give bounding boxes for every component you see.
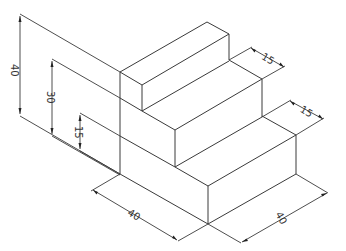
isometric-stair-drawing: 40 30 15 15 15	[0, 0, 346, 251]
tread-lower-15-label: 15	[298, 104, 315, 120]
height-30-label: 30	[45, 91, 56, 104]
dimension-tread-upper-15: 15	[229, 47, 285, 79]
dimension-height-15: 15	[73, 113, 120, 174]
dimension-height-40: 40	[9, 14, 120, 174]
dimension-height-30: 30	[45, 59, 120, 175]
dimension-tread-lower-15: 15	[262, 100, 324, 135]
height-15-label: 15	[73, 126, 84, 139]
height-40-label: 40	[9, 64, 20, 77]
width-40-label: 40	[126, 207, 143, 223]
depth-40-label: 40	[273, 210, 289, 227]
tread-upper-15-label: 15	[260, 51, 277, 67]
dimension-depth-40: 40	[208, 174, 328, 243]
dimension-width-40: 40	[91, 174, 208, 241]
